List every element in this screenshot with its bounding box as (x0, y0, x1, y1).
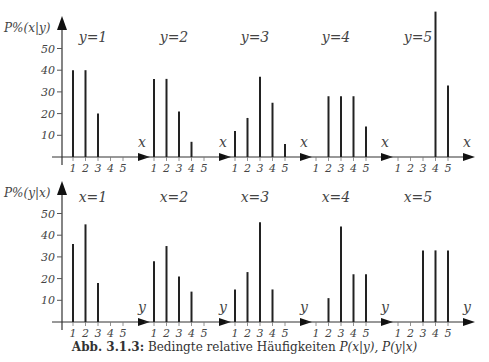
y-tick-label: 40 (40, 64, 55, 77)
x-tick-label: 3 (420, 162, 427, 175)
x-tick-label: 4 (268, 327, 276, 340)
x-tick-label: 2 (162, 162, 170, 175)
x-tick-label: 3 (338, 162, 345, 175)
panel-x-4: yx=412345 (306, 189, 393, 340)
x-axis-label: y (462, 299, 472, 315)
x-tick-label: 2 (243, 327, 251, 340)
x-axis-label: x (300, 134, 308, 150)
y-tick-label: 10 (41, 294, 55, 307)
panel-title: y=2 (159, 29, 189, 45)
x-tick-label: 4 (106, 162, 114, 175)
x-axis-label: y (137, 299, 147, 315)
y-tick-label: 50 (41, 208, 55, 221)
x-tick-label: 2 (81, 327, 89, 340)
x-tick-label: 4 (106, 327, 114, 340)
panel-title: x=3 (241, 189, 270, 205)
panel-x-5: yx=512345 (388, 189, 475, 340)
x-tick-label: 2 (81, 162, 89, 175)
x-tick-label: 2 (243, 162, 251, 175)
x-tick-label: 1 (313, 162, 320, 175)
x-tick-label: 5 (201, 327, 208, 340)
x-tick-label: 2 (406, 327, 414, 340)
panel-y-4: xy=412345 (306, 29, 393, 175)
conditional-frequency-chart: P%(x|y)1020304050xy=112345xy=212345xy=31… (0, 0, 489, 362)
y-axis-arrow-icon (57, 181, 67, 195)
x-tick-label: 5 (363, 327, 370, 340)
panel-y-1: xy=112345 (62, 29, 150, 175)
caption-formula: P(x|y), P(y|x) (339, 340, 417, 354)
x-tick-label: 4 (431, 327, 439, 340)
x-tick-label: 5 (201, 162, 208, 175)
panel-x-1: yx=112345 (62, 189, 150, 340)
x-tick-label: 3 (420, 327, 427, 340)
y-tick-label: 20 (40, 273, 55, 286)
x-axis-arrow-icon (463, 153, 475, 161)
x-tick-label: 1 (151, 327, 158, 340)
x-tick-label: 4 (187, 162, 195, 175)
x-tick-label: 1 (395, 327, 402, 340)
x-tick-label: 5 (363, 162, 370, 175)
x-tick-label: 3 (176, 162, 183, 175)
x-tick-label: 3 (338, 327, 345, 340)
x-tick-label: 2 (406, 162, 414, 175)
panel-x-2: yx=212345 (144, 189, 231, 340)
x-tick-label: 5 (282, 327, 289, 340)
x-tick-label: 1 (232, 327, 239, 340)
x-axis-arrow-icon (463, 318, 475, 326)
panel-title: y=1 (78, 29, 108, 45)
x-tick-label: 4 (431, 162, 439, 175)
x-tick-label: 1 (313, 327, 320, 340)
x-axis-label: x (381, 134, 389, 150)
x-axis-label: x (219, 134, 227, 150)
x-tick-label: 5 (445, 162, 452, 175)
panel-x-3: yx=312345 (225, 189, 312, 340)
x-tick-label: 3 (95, 327, 102, 340)
y-axis-arrow-icon (57, 16, 67, 30)
bottom-row-chart: P%(y|x)1020304050yx=112345yx=212345yx=31… (3, 181, 475, 340)
x-tick-label: 3 (257, 327, 264, 340)
x-axis-label: y (380, 299, 390, 315)
y-tick-label: 30 (41, 86, 55, 99)
caption-text: Bedingte relative Häufigkeiten (148, 340, 336, 354)
x-axis-label: y (299, 299, 309, 315)
panel-title: y=4 (321, 29, 351, 45)
x-axis-label: x (463, 134, 471, 150)
x-tick-label: 1 (70, 327, 77, 340)
top-row-chart: P%(x|y)1020304050xy=112345xy=212345xy=31… (3, 12, 475, 175)
x-axis-label: y (218, 299, 228, 315)
panel-y-3: xy=312345 (225, 29, 312, 175)
x-tick-label: 1 (232, 162, 239, 175)
x-tick-label: 5 (120, 327, 127, 340)
x-tick-label: 1 (151, 162, 158, 175)
x-tick-label: 3 (257, 162, 264, 175)
panel-title: x=5 (404, 189, 433, 205)
x-tick-label: 2 (324, 162, 332, 175)
y-axis-label: P%(x|y) (3, 21, 51, 35)
caption-label: Abb. 3.1.3: (72, 340, 144, 354)
y-tick-label: 40 (40, 229, 55, 242)
panel-y-2: xy=212345 (144, 29, 231, 175)
panel-y-5: xy=512345 (388, 12, 475, 175)
x-tick-label: 4 (349, 327, 357, 340)
x-tick-label: 4 (349, 162, 357, 175)
panel-title: y=5 (403, 29, 433, 45)
y-tick-label: 20 (40, 108, 55, 121)
panel-title: x=1 (79, 189, 108, 205)
x-tick-label: 4 (268, 162, 276, 175)
x-tick-label: 1 (395, 162, 402, 175)
panel-title: y=3 (240, 29, 270, 45)
panel-title: x=2 (160, 189, 189, 205)
panel-title: x=4 (322, 189, 351, 205)
x-tick-label: 5 (445, 327, 452, 340)
x-tick-label: 4 (187, 327, 195, 340)
x-tick-label: 2 (324, 327, 332, 340)
x-tick-label: 1 (70, 162, 77, 175)
x-tick-label: 3 (95, 162, 102, 175)
y-tick-label: 10 (41, 129, 55, 142)
x-tick-label: 5 (282, 162, 289, 175)
x-tick-label: 5 (120, 162, 127, 175)
x-axis-label: x (138, 134, 146, 150)
y-axis-label: P%(y|x) (3, 186, 51, 200)
x-tick-label: 2 (162, 327, 170, 340)
y-tick-label: 50 (41, 43, 55, 56)
